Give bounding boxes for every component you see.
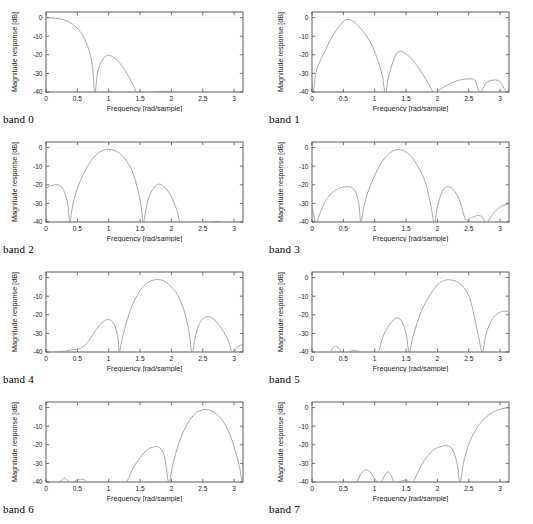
magnitude-response-plot-band-1: 00.511.522.530-10-20-30-40Frequency [rad… [266, 0, 516, 112]
panel-caption-band-7: band 7 [269, 503, 300, 515]
plot-panel-band-7: 00.511.522.530-10-20-30-40Frequency [rad… [266, 390, 532, 521]
plot-panel-band-5: 00.511.522.530-10-20-30-40Frequency [rad… [266, 260, 532, 391]
x-axis-label: Frequency [rad/sample] [373, 364, 449, 372]
y-tick-label-4: -40 [299, 218, 309, 225]
x-tick-label-0: 0 [44, 485, 48, 492]
y-axis-label: Magnitude response [dB] [276, 142, 285, 222]
x-axis-label: Frequency [rad/sample] [373, 104, 449, 112]
x-axis-label: Frequency [rad/sample] [107, 234, 183, 242]
x-tick-label-4: 2 [436, 485, 440, 492]
y-axis-label: Magnitude response [dB] [10, 142, 19, 222]
plot-panel-band-3: 00.511.522.530-10-20-30-40Frequency [rad… [266, 130, 532, 261]
y-axis-label: Magnitude response [dB] [276, 12, 285, 92]
x-tick-label-1: 0.5 [73, 485, 82, 492]
y-tick-label-3: -30 [33, 460, 43, 467]
y-tick-label-0: 0 [305, 144, 309, 151]
y-tick-label-4: -40 [33, 218, 43, 225]
y-tick-label-2: -20 [33, 441, 43, 448]
x-tick-label-3: 1.5 [135, 225, 144, 232]
y-tick-label-2: -20 [299, 311, 309, 318]
y-axis-label: Magnitude response [dB] [10, 402, 19, 482]
plot-panel-band-0: 00.511.522.530-10-20-30-40Frequency [rad… [0, 0, 266, 131]
panel-caption-band-0: band 0 [3, 113, 34, 125]
magnitude-response-plot-band-3: 00.511.522.530-10-20-30-40Frequency [rad… [266, 130, 516, 242]
x-tick-label-4: 2 [436, 95, 440, 102]
y-tick-label-3: -30 [33, 330, 43, 337]
plot-frame [46, 272, 243, 352]
x-tick-label-2: 1 [107, 485, 111, 492]
x-tick-label-0: 0 [44, 95, 48, 102]
panel-caption-band-4: band 4 [3, 373, 34, 385]
y-tick-label-1: -10 [299, 33, 309, 40]
x-tick-label-5: 2.5 [464, 485, 473, 492]
y-tick-label-1: -10 [299, 293, 309, 300]
x-tick-label-3: 1.5 [401, 355, 410, 362]
x-tick-label-1: 0.5 [73, 225, 82, 232]
x-tick-label-0: 0 [44, 355, 48, 362]
x-tick-label-5: 2.5 [198, 95, 207, 102]
x-tick-label-6: 3 [232, 95, 236, 102]
plot-frame [46, 142, 243, 222]
figure-sheet: 00.511.522.530-10-20-30-40Frequency [rad… [0, 0, 533, 524]
x-tick-label-2: 1 [107, 355, 111, 362]
y-tick-label-1: -10 [33, 293, 43, 300]
x-tick-label-1: 0.5 [339, 95, 348, 102]
x-tick-label-6: 3 [232, 225, 236, 232]
magnitude-response-plot-band-6: 00.511.522.530-10-20-30-40Frequency [rad… [0, 390, 250, 502]
x-tick-label-2: 1 [373, 225, 377, 232]
y-tick-label-3: -30 [33, 200, 43, 207]
magnitude-response-plot-band-5: 00.511.522.530-10-20-30-40Frequency [rad… [266, 260, 516, 372]
y-tick-label-0: 0 [305, 14, 309, 21]
y-axis-label: Magnitude response [dB] [276, 402, 285, 482]
x-axis-label: Frequency [rad/sample] [107, 104, 183, 112]
plot-frame [312, 142, 509, 222]
y-tick-label-0: 0 [39, 274, 43, 281]
y-tick-label-3: -30 [299, 460, 309, 467]
x-tick-label-6: 3 [498, 225, 502, 232]
plot-panel-band-6: 00.511.522.530-10-20-30-40Frequency [rad… [0, 390, 266, 521]
y-tick-label-0: 0 [39, 404, 43, 411]
x-tick-label-3: 1.5 [401, 95, 410, 102]
x-tick-label-4: 2 [436, 355, 440, 362]
y-tick-label-1: -10 [299, 423, 309, 430]
x-tick-label-2: 1 [373, 95, 377, 102]
y-tick-label-4: -40 [33, 88, 43, 95]
x-tick-label-6: 3 [232, 485, 236, 492]
plot-frame [46, 12, 243, 92]
y-tick-label-3: -30 [299, 200, 309, 207]
y-axis-label: Magnitude response [dB] [276, 272, 285, 352]
x-tick-label-6: 3 [498, 95, 502, 102]
x-axis-label: Frequency [rad/sample] [107, 494, 183, 502]
x-tick-label-5: 2.5 [464, 225, 473, 232]
magnitude-response-plot-band-4: 00.511.522.530-10-20-30-40Frequency [rad… [0, 260, 250, 372]
x-tick-label-1: 0.5 [73, 355, 82, 362]
plot-frame [312, 402, 509, 482]
x-tick-label-3: 1.5 [401, 225, 410, 232]
y-tick-label-0: 0 [305, 274, 309, 281]
x-tick-label-5: 2.5 [464, 355, 473, 362]
x-tick-label-4: 2 [170, 355, 174, 362]
panel-caption-band-3: band 3 [269, 243, 300, 255]
x-tick-label-0: 0 [44, 225, 48, 232]
x-tick-label-5: 2.5 [464, 95, 473, 102]
x-tick-label-1: 0.5 [73, 95, 82, 102]
x-tick-label-4: 2 [436, 225, 440, 232]
y-tick-label-2: -20 [33, 311, 43, 318]
x-axis-label: Frequency [rad/sample] [107, 364, 183, 372]
plot-panel-band-1: 00.511.522.530-10-20-30-40Frequency [rad… [266, 0, 532, 131]
x-tick-label-3: 1.5 [135, 485, 144, 492]
x-tick-label-0: 0 [310, 485, 314, 492]
y-tick-label-1: -10 [33, 33, 43, 40]
x-tick-label-3: 1.5 [135, 95, 144, 102]
x-tick-label-5: 2.5 [198, 485, 207, 492]
x-tick-label-0: 0 [310, 225, 314, 232]
y-tick-label-0: 0 [39, 144, 43, 151]
x-tick-label-0: 0 [310, 355, 314, 362]
x-tick-label-6: 3 [498, 485, 502, 492]
plot-panel-band-2: 00.511.522.530-10-20-30-40Frequency [rad… [0, 130, 266, 261]
x-tick-label-4: 2 [170, 225, 174, 232]
y-tick-label-2: -20 [33, 51, 43, 58]
x-tick-label-4: 2 [170, 485, 174, 492]
y-tick-label-2: -20 [299, 51, 309, 58]
y-tick-label-2: -20 [299, 181, 309, 188]
